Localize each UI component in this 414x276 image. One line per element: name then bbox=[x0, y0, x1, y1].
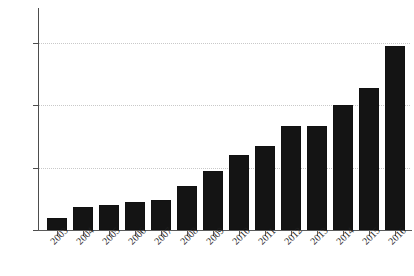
bar bbox=[203, 171, 224, 230]
y-axis-line bbox=[38, 8, 39, 230]
y-tick bbox=[33, 43, 39, 44]
bar bbox=[151, 200, 172, 230]
bar bbox=[333, 105, 354, 230]
gridline bbox=[39, 105, 410, 106]
bar bbox=[255, 146, 276, 230]
plot-area: 4080120160 bbox=[38, 8, 410, 230]
bar bbox=[385, 46, 406, 230]
bar bbox=[229, 155, 250, 230]
bar bbox=[177, 186, 198, 230]
y-tick bbox=[33, 168, 39, 169]
bar-chart: 4080120160 20032004200520062007200820092… bbox=[0, 0, 414, 276]
gridline bbox=[39, 43, 410, 44]
y-tick bbox=[33, 105, 39, 106]
bar bbox=[281, 126, 302, 230]
bar bbox=[359, 88, 380, 230]
bar bbox=[125, 202, 146, 230]
gridline bbox=[39, 168, 410, 169]
bar bbox=[307, 126, 328, 230]
